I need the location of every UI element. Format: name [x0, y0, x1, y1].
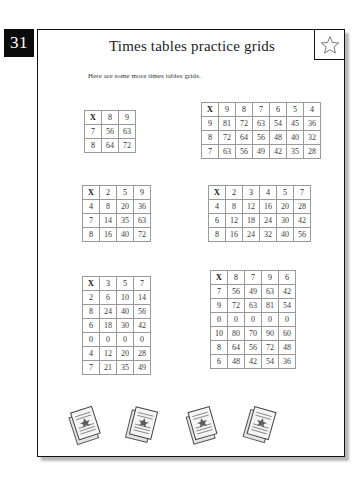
grid-row: 648425436 — [211, 355, 296, 369]
grid-value-cell: 28 — [134, 347, 151, 361]
grid-row: 8244056 — [83, 305, 151, 319]
grid-value-cell: 72 — [262, 341, 279, 355]
grid-row-header: 6 — [83, 319, 100, 333]
grid-row-header: 2 — [83, 291, 100, 305]
grid-column-header: 9 — [134, 186, 151, 200]
grid-value-cell: 0 — [262, 313, 279, 327]
grid-column-header: 5 — [117, 186, 134, 200]
worksheet-sheet: Times tables practice grids Here are som… — [37, 29, 345, 457]
grid-value-cell: 0 — [134, 333, 151, 347]
grid-row-header: 8 — [85, 139, 102, 153]
grid-corner-cell: X — [83, 186, 100, 200]
grid-row: 00000 — [211, 313, 296, 327]
grid-value-cell: 42 — [245, 355, 262, 369]
grid-value-cell: 81 — [262, 299, 279, 313]
grid-value-cell: 0 — [279, 313, 296, 327]
stacked-papers-icon — [183, 403, 223, 447]
grid-value-cell: 6 — [100, 291, 117, 305]
grid-value-cell: 10 — [117, 291, 134, 305]
grid-row-header: 4 — [209, 200, 226, 214]
grid-value-cell: 0 — [245, 313, 262, 327]
grid-value-cell: 42 — [279, 285, 296, 299]
grid-column-header: 6 — [279, 271, 296, 285]
times-table-grid: X357261014824405661830420000412202872135… — [82, 276, 151, 375]
grid-value-cell: 35 — [117, 361, 134, 375]
grid-row: 756496342 — [211, 285, 296, 299]
grid-value-cell: 28 — [304, 145, 321, 159]
grid-header-row: X259 — [83, 186, 151, 200]
grid-column-header: 9 — [119, 111, 136, 125]
grid-value-cell: 16 — [226, 228, 243, 242]
grid-row-header: 7 — [85, 125, 102, 139]
grid-row: 972638154 — [211, 299, 296, 313]
grid-column-header: 9 — [262, 271, 279, 285]
grid-row-header: 7 — [211, 285, 228, 299]
grid-row-header: 4 — [83, 200, 100, 214]
times-table-grid: X879675649634297263815400000108070906086… — [210, 270, 296, 369]
grid-value-cell: 64 — [236, 131, 253, 145]
grid-value-cell: 42 — [134, 319, 151, 333]
grid-value-cell: 16 — [260, 200, 277, 214]
grid-value-cell: 14 — [134, 291, 151, 305]
grid-header-row: X987654 — [202, 103, 321, 117]
grid-value-cell: 24 — [243, 228, 260, 242]
stacked-papers-icon — [66, 403, 106, 447]
grid-row-header: 7 — [83, 361, 100, 375]
grid-value-cell: 0 — [228, 313, 245, 327]
grid-value-cell: 20 — [117, 200, 134, 214]
grid-corner-cell: X — [211, 271, 228, 285]
grid-corner-cell: X — [202, 103, 219, 117]
grid-value-cell: 36 — [304, 117, 321, 131]
grid-column-header: 3 — [100, 277, 117, 291]
grid-value-cell: 54 — [270, 117, 287, 131]
grid-corner-cell: X — [83, 277, 100, 291]
grid-value-cell: 90 — [262, 327, 279, 341]
grid-value-cell: 36 — [134, 200, 151, 214]
grid-row: 81624324056 — [209, 228, 311, 242]
grid-value-cell: 72 — [219, 131, 236, 145]
grid-value-cell: 42 — [294, 214, 311, 228]
grid-value-cell: 72 — [119, 139, 136, 153]
times-table-grid: X897566386472 — [84, 110, 136, 153]
grid-column-header: 3 — [243, 186, 260, 200]
grid-value-cell: 16 — [100, 228, 117, 242]
grid-row: 86472 — [85, 139, 136, 153]
grid-column-header: 8 — [102, 111, 119, 125]
grid-row: 7635649423528 — [202, 145, 321, 159]
grid-value-cell: 42 — [270, 145, 287, 159]
grid-value-cell: 64 — [228, 341, 245, 355]
grid-row-header: 10 — [211, 327, 228, 341]
grid-column-header: 5 — [117, 277, 134, 291]
grid-value-cell: 24 — [100, 305, 117, 319]
grid-column-header: 7 — [245, 271, 262, 285]
grid-value-cell: 56 — [245, 341, 262, 355]
grid-row: 1080709060 — [211, 327, 296, 341]
grid-value-cell: 14 — [100, 214, 117, 228]
stacked-papers-icon — [241, 403, 281, 447]
grid-column-header: 5 — [277, 186, 294, 200]
grid-value-cell: 56 — [294, 228, 311, 242]
grid-value-cell: 48 — [279, 341, 296, 355]
grid-value-cell: 54 — [279, 299, 296, 313]
grid-value-cell: 21 — [100, 361, 117, 375]
times-table-grid: X2345748121620286121824304281624324056 — [208, 185, 311, 242]
grid-row-header: 0 — [211, 313, 228, 327]
grid-value-cell: 54 — [262, 355, 279, 369]
grid-column-header: 2 — [226, 186, 243, 200]
grid-value-cell: 63 — [219, 145, 236, 159]
grid-value-cell: 72 — [134, 228, 151, 242]
grid-row-header: 0 — [83, 333, 100, 347]
grid-value-cell: 80 — [228, 327, 245, 341]
worksheet-page: 31 Times tables practice grids Here are … — [0, 0, 354, 484]
grid-value-cell: 40 — [287, 131, 304, 145]
grid-row-header: 8 — [202, 131, 219, 145]
grid-value-cell: 40 — [117, 305, 134, 319]
grid-value-cell: 28 — [294, 200, 311, 214]
grid-row-header: 7 — [83, 214, 100, 228]
grid-row-header: 9 — [211, 299, 228, 313]
grid-value-cell: 56 — [236, 145, 253, 159]
grid-row-header: 6 — [211, 355, 228, 369]
grid-value-cell: 40 — [277, 228, 294, 242]
times-table-grid: X25948203671435638164072 — [82, 185, 151, 242]
page-subtitle: Here are some more times tables grids. — [88, 72, 201, 80]
